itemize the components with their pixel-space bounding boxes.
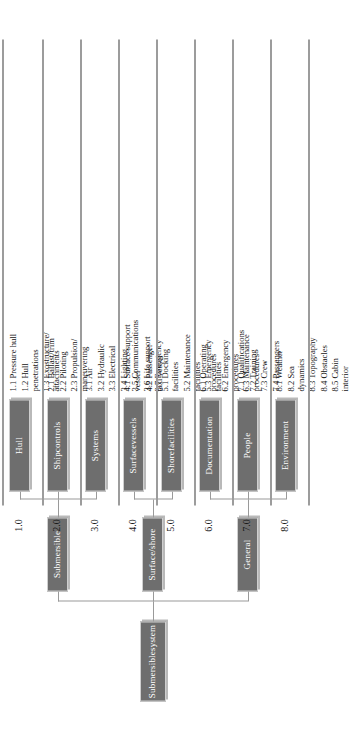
connector-submersible-to-1.0 [20,491,21,499]
list-item: 3.3 Electrical [107,41,117,391]
item-list-8.0: 8.1 Weather8.2 Sea dynamics8.3 Topograph… [274,41,352,391]
connector-root-to-general [248,591,249,601]
column-box-people: People [237,399,258,491]
connector-root-stem [153,601,154,621]
column-box-ship-controls: Shipcontrols [47,399,68,491]
level-number-8.0: 8.0 [279,505,290,545]
list-item: 8.1 Weather [274,41,284,391]
item-list-4.0: 4.1 Surface support vessel4.2 Passenger … [122,41,165,391]
separator-rule-2.0 [80,39,82,505]
connector-root-to-surface-shore [153,591,154,601]
column-box-shore-facilities: Shorefacilities [161,399,182,491]
list-item: 8.5 Cabin interior [330,41,350,391]
connector-surface-shore-to-5.0 [172,491,173,499]
connector-surface-shore-to-4.0 [134,491,135,499]
list-item: 7.2 Training [248,41,258,391]
separator-rule-5.0 [194,39,196,505]
level-number-1.0: 1.0 [13,505,24,545]
level-number-6.0: 6.0 [203,505,214,545]
list-item: 3.2 Hydraulic [96,41,106,391]
list-item: 3.1 Air [84,41,94,391]
separator-rule-top [2,39,4,505]
list-item: 4.1 Surface support vessel [122,41,142,391]
connector-submersible-to-2.0 [58,491,59,499]
level-number-7.0: 7.0 [241,505,252,545]
level-number-3.0: 3.0 [89,505,100,545]
separator-rule-6.0 [232,39,234,505]
column-box-systems: Systems [85,399,106,491]
list-item: 2.2 Piloting [58,41,68,391]
level-number-4.0: 4.0 [127,505,138,545]
list-item: 6.1 Operating procedures [198,41,218,391]
list-item: 5.1 Docking facilities [160,41,180,391]
list-item: 8.4 Obstacles [319,41,329,391]
list-item: 7.3 Crew [259,41,269,391]
list-item: 1.1 Pressure hull [8,41,18,391]
column-box-surface-vessels: Surfacevessels [123,399,144,491]
separator-rule-3.0 [118,39,120,505]
connector-surface-shore-stem [153,499,154,517]
level-number-2.0: 2.0 [51,505,62,545]
connector-general-to-8.0 [286,491,287,499]
connector-general-to-6.0 [210,491,211,499]
column-box-hull: Hull [9,399,30,491]
list-item: 2.1 Ballast/trim [46,41,56,391]
level-number-5.0: 5.0 [165,505,176,545]
separator-rule-4.0 [156,39,158,505]
root-box-submersible-system: Submersiblesystem [140,621,166,701]
separator-rule-8.0 [308,39,310,505]
column-box-environment: Environment [275,399,296,491]
separator-rule-7.0 [270,39,272,505]
separator-rule-1.0 [42,39,44,505]
column-box-documentation: Documentation [199,399,220,491]
connector-surface-shore-spine [134,498,172,499]
connector-general-to-7.0 [248,491,249,499]
list-item: 1.2 Hull penetrations [20,41,40,391]
list-item: 8.2 Sea dynamics [286,41,306,391]
connector-submersible-to-3.0 [96,491,97,499]
list-item: 7.1 Qualifications [236,41,246,391]
connector-root-to-submersible [58,591,59,601]
level1-box-surface-shore: Surface/shore [142,517,163,591]
